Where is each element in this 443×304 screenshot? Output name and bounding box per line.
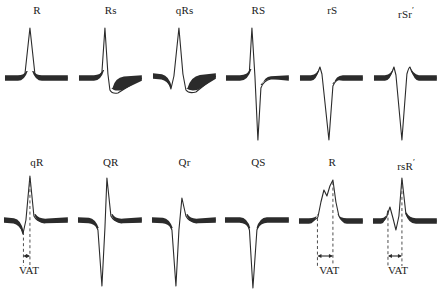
baseline-right-thick bbox=[338, 215, 364, 224]
ecg-qrs-nomenclature-figure: R Rs qRs bbox=[0, 0, 443, 304]
waveform-panel-r-notched: R VAT bbox=[295, 152, 369, 304]
waveform-trace bbox=[78, 178, 142, 286]
prime-mark: ′ bbox=[412, 5, 414, 15]
q-wave-thick bbox=[152, 217, 173, 228]
waveform-panel-rs-lower: Rs bbox=[74, 0, 148, 152]
waveform-graphic-r-notched bbox=[295, 168, 369, 304]
s-wave-thick bbox=[186, 73, 216, 90]
waveform-row-top: R Rs qRs bbox=[0, 0, 443, 152]
waveform-svg-rs-lower bbox=[74, 16, 148, 152]
panel-label-qr-small-q: qR bbox=[0, 156, 74, 168]
waveform-panel-rsr-prime-tall: rsR′ VAT bbox=[369, 152, 443, 304]
waveform-panel-qr-small-r: Qr bbox=[148, 152, 222, 304]
vat-arrow-head-left bbox=[318, 254, 322, 258]
waveform-trace bbox=[152, 198, 216, 286]
waveform-graphic-rsr-prime-tall bbox=[369, 168, 443, 304]
waveform-trace bbox=[4, 176, 68, 234]
waveform-svg-rsr-prime bbox=[369, 16, 443, 152]
panel-label-r: R bbox=[0, 4, 74, 16]
panel-label-qrs: qRs bbox=[148, 4, 222, 16]
baseline-right-thick bbox=[405, 213, 437, 224]
vat-arrow-head-left bbox=[23, 254, 26, 258]
panel-label-qr-large-q: QR bbox=[74, 156, 148, 168]
waveform-panel-rs-upper: RS bbox=[221, 0, 295, 152]
s-wave-thick bbox=[111, 75, 142, 90]
prime-mark: ′ bbox=[413, 157, 415, 167]
waveform-panel-qr-small-q: qR VAT bbox=[0, 152, 74, 304]
baseline-left-thick bbox=[5, 71, 28, 81]
baseline-right-thick bbox=[34, 214, 68, 223]
q-wave-thick bbox=[153, 73, 172, 87]
vat-label-qr-small-q: VAT bbox=[0, 264, 66, 276]
baseline-right-thick bbox=[261, 75, 289, 85]
panel-label-rs-lower: Rs bbox=[74, 4, 148, 16]
waveform-panel-rsr-prime: rSr′ bbox=[369, 0, 443, 152]
q-wave-thick bbox=[4, 217, 24, 232]
vat-arrow-head-right bbox=[26, 254, 29, 258]
waveform-panel-qr-large-q: QR bbox=[74, 152, 148, 304]
vat-label-r-notched: VAT bbox=[292, 264, 366, 276]
panel-label-rs-small-r: rS bbox=[295, 4, 369, 16]
waveform-svg-r-notched bbox=[295, 168, 369, 304]
q-wave-thick bbox=[78, 217, 99, 228]
baseline-right-thick bbox=[32, 71, 68, 81]
waveform-svg-rs-small-r bbox=[295, 16, 369, 152]
baseline-left-thick bbox=[79, 70, 104, 81]
waveform-svg-r bbox=[0, 16, 74, 152]
waveform-svg-qrs bbox=[148, 16, 222, 152]
waveform-graphic-rsr-prime bbox=[369, 16, 443, 152]
vat-arrow-head-right bbox=[329, 254, 333, 258]
waveform-svg-qr-small-r bbox=[148, 168, 222, 304]
waveform-graphic-qr-small-r bbox=[148, 168, 222, 304]
baseline-right-thick bbox=[333, 75, 364, 84]
baseline-left-thick bbox=[226, 69, 251, 81]
panel-label-qs: QS bbox=[221, 156, 295, 168]
vat-arrow-head-left bbox=[388, 254, 392, 258]
waveform-graphic-rs-small-r bbox=[295, 16, 369, 152]
waveform-trace bbox=[225, 220, 289, 288]
baseline-right-thick bbox=[186, 214, 216, 223]
panel-label-rs-upper: RS bbox=[221, 4, 295, 16]
r-wave-thick bbox=[300, 66, 321, 81]
waveform-svg-qr-small-q bbox=[0, 168, 74, 304]
vat-arrow-head-right bbox=[398, 254, 402, 258]
r-wave-thick bbox=[374, 66, 395, 81]
waveform-trace bbox=[226, 28, 289, 140]
s-ascent-thick bbox=[257, 217, 289, 228]
panel-label-r-notched: R bbox=[295, 156, 369, 168]
waveform-graphic-qr-large-q bbox=[74, 168, 148, 304]
vat-label-rsr-prime-tall: VAT bbox=[361, 264, 435, 276]
panel-label-qr-small-r: Qr bbox=[148, 156, 222, 168]
waveform-graphic-qs bbox=[221, 168, 295, 304]
waveform-trace bbox=[299, 180, 363, 221]
waveform-panel-r: R bbox=[0, 0, 74, 152]
waveform-graphic-qrs bbox=[148, 16, 222, 152]
waveform-svg-qr-large-q bbox=[74, 168, 148, 304]
waveform-panel-qrs: qRs bbox=[148, 0, 222, 152]
waveform-svg-rsr-prime-tall bbox=[369, 168, 443, 304]
baseline-right-thick bbox=[111, 214, 142, 223]
waveform-svg-rs-upper bbox=[221, 16, 295, 152]
r-prime-wave-thick bbox=[410, 66, 437, 81]
waveform-graphic-rs-upper bbox=[221, 16, 295, 152]
waveform-panel-qs: QS bbox=[221, 152, 295, 304]
waveform-svg-qs bbox=[221, 168, 295, 304]
waveform-row-bottom: qR VAT QR bbox=[0, 152, 443, 304]
q-descent-thick bbox=[225, 217, 250, 228]
waveform-graphic-r bbox=[0, 16, 74, 152]
waveform-trace bbox=[5, 28, 68, 78]
waveform-graphic-qr-small-q bbox=[0, 168, 74, 304]
waveform-graphic-rs-lower bbox=[74, 16, 148, 152]
waveform-panel-rs-small-r: rS bbox=[295, 0, 369, 152]
